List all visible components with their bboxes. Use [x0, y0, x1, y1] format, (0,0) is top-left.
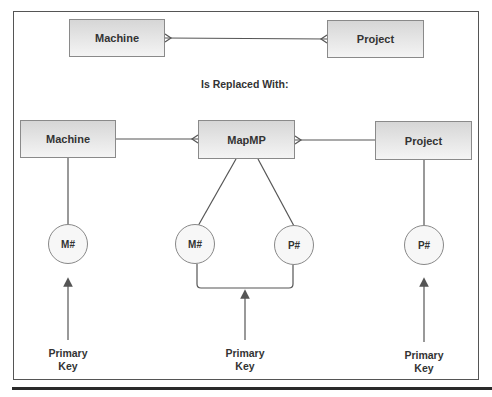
attribute-label: P# [418, 240, 430, 251]
key-label-line1: Primary [33, 347, 103, 360]
entity-label: Machine [95, 32, 139, 44]
primary-key-label-project: Primary Key [389, 349, 459, 375]
entity-label: Project [405, 135, 442, 147]
attribute-label: M# [61, 239, 75, 250]
connector-lines [0, 0, 492, 397]
entity-label: MapMP [227, 134, 266, 146]
key-label-line1: Primary [389, 349, 459, 362]
attribute-machine-mnum: M# [48, 224, 88, 264]
replaced-with-caption: Is Replaced With: [201, 78, 288, 90]
attribute-label: P# [288, 240, 300, 251]
attribute-mapmp-mnum: M# [175, 224, 215, 264]
attribute-project-pnum: P# [404, 225, 444, 265]
key-label-line1: Primary [210, 347, 280, 360]
attribute-mapmp-pnum: P# [274, 225, 314, 265]
entity-mapmp: MapMP [198, 120, 295, 159]
entity-machine-top: Machine [69, 19, 165, 57]
entity-label: Project [357, 33, 394, 45]
primary-key-label-machine: Primary Key [33, 347, 103, 373]
key-label-line2: Key [33, 360, 103, 373]
attribute-label: M# [188, 239, 202, 250]
primary-key-label-mapmp: Primary Key [210, 347, 280, 373]
key-label-line2: Key [389, 362, 459, 375]
entity-machine: Machine [20, 120, 116, 158]
entity-label: Machine [46, 133, 90, 145]
key-label-line2: Key [210, 360, 280, 373]
entity-project: Project [375, 121, 472, 160]
entity-project-top: Project [327, 20, 424, 58]
